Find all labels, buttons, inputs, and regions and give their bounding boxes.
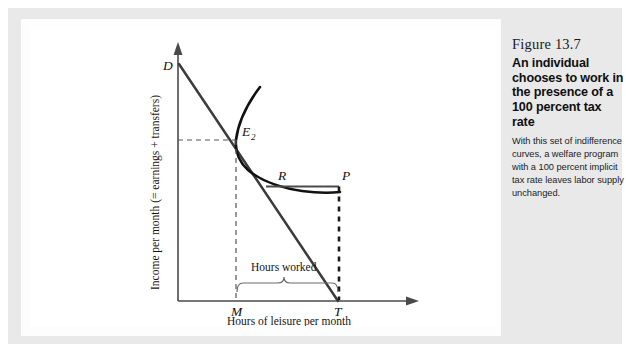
label-point-e2-subscript: 2 xyxy=(251,132,256,142)
label-point-e2: E xyxy=(241,124,251,139)
annotation-hours-worked: Hours worked xyxy=(251,261,317,273)
figure-caption: Figure 13.7 An individual chooses to wor… xyxy=(512,36,624,201)
label-point-p: P xyxy=(341,168,350,183)
book-page: D E 2 R P M T Hours worked Hours of leis… xyxy=(8,8,622,344)
economics-chart: D E 2 R P M T Hours worked Hours of leis… xyxy=(30,28,496,326)
x-axis-arrowhead xyxy=(406,297,419,306)
y-axis-title: Income per month (= earnings + transfers… xyxy=(149,95,162,290)
figure-description: With this set of indifference curves, a … xyxy=(512,135,624,201)
x-axis-title: Hours of leisure per month xyxy=(227,315,351,326)
y-axis-arrowhead xyxy=(174,42,183,55)
chart-panel: D E 2 R P M T Hours worked Hours of leis… xyxy=(30,28,496,326)
label-point-r: R xyxy=(277,168,287,183)
figure-title: An individual chooses to work in the pre… xyxy=(512,56,624,130)
screenshot-root: D E 2 R P M T Hours worked Hours of leis… xyxy=(0,0,626,351)
figure-number: Figure 13.7 xyxy=(512,36,624,53)
label-point-d: D xyxy=(162,58,173,73)
